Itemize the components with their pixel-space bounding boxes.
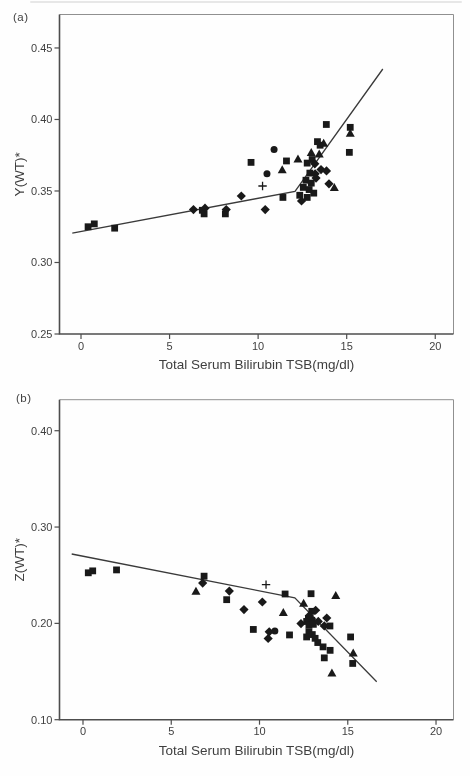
series-circle	[271, 627, 278, 634]
x-tick-label: 20	[430, 725, 442, 737]
series-circle	[263, 146, 277, 177]
data-point-square	[310, 190, 317, 197]
data-point-square	[223, 596, 230, 603]
series-square	[85, 567, 356, 667]
data-point-square	[286, 632, 293, 639]
plot-frame	[60, 15, 454, 335]
data-point-square	[250, 626, 257, 633]
data-point-square	[282, 591, 289, 598]
series-plus	[262, 580, 270, 588]
x-tick-label: 10	[253, 725, 265, 737]
data-point-square	[89, 567, 96, 574]
data-point-diamond	[189, 205, 198, 214]
scatter-chart-b: 051015200.100.200.300.40Total Serum Bili…	[0, 388, 470, 776]
data-point-square	[280, 194, 287, 201]
x-tick-label: 5	[168, 725, 174, 737]
data-point-triangle	[307, 148, 316, 156]
axis-lines	[60, 400, 454, 720]
x-tick-label: 5	[167, 340, 173, 352]
data-point-triangle	[349, 649, 358, 657]
data-point-circle	[271, 627, 278, 634]
data-point-square	[300, 184, 307, 191]
data-point-square	[283, 158, 290, 165]
data-point-diamond	[225, 587, 234, 596]
y-tick-label: 0.35	[31, 185, 52, 197]
scanned-figure-page: (a) 051015200.250.300.350.400.45Total Se…	[0, 0, 470, 776]
data-point-square	[321, 654, 328, 661]
x-tick-label: 15	[341, 340, 353, 352]
x-tick-label: 20	[429, 340, 441, 352]
data-point-square	[347, 634, 354, 641]
data-point-square	[303, 634, 310, 641]
panel-a-label: (a)	[13, 11, 29, 23]
data-point-square	[346, 149, 353, 156]
y-tick-label: 0.40	[31, 113, 52, 125]
data-point-square	[323, 121, 330, 128]
y-tick-label: 0.30	[31, 521, 52, 533]
y-tick-label: 0.10	[31, 714, 52, 726]
data-point-plus	[262, 580, 270, 588]
data-point-square	[349, 660, 356, 667]
x-tick-label: 15	[342, 725, 354, 737]
data-point-triangle	[279, 608, 288, 616]
x-axis-title: Total Serum Bilirubin TSB(mg/dl)	[159, 743, 355, 758]
data-point-triangle	[191, 587, 200, 595]
data-point-circle	[263, 170, 270, 177]
data-point-diamond	[239, 605, 248, 614]
y-tick-label: 0.45	[31, 42, 52, 54]
data-point-square	[201, 573, 208, 580]
data-point-diamond	[261, 205, 270, 214]
data-point-square	[248, 159, 255, 166]
x-tick-label: 10	[252, 340, 264, 352]
data-point-plus	[258, 182, 266, 190]
panel-b-label: (b)	[16, 392, 32, 404]
data-point-diamond	[322, 613, 331, 622]
data-point-diamond	[264, 634, 273, 643]
data-point-diamond	[237, 191, 246, 200]
x-tick-label: 0	[80, 725, 86, 737]
data-point-square	[308, 590, 315, 597]
data-point-square	[308, 180, 315, 187]
y-tick-label: 0.25	[31, 328, 52, 340]
y-tick-label: 0.40	[31, 425, 52, 437]
data-point-triangle	[293, 154, 302, 162]
data-point-square	[320, 643, 327, 650]
data-point-triangle	[278, 165, 287, 173]
series-plus	[258, 182, 266, 190]
y-tick-label: 0.30	[31, 256, 52, 268]
y-axis-title: Y(WT)*	[12, 151, 27, 196]
axis-lines	[60, 15, 454, 335]
panel-b: (b) 051015200.100.200.300.40Total Serum …	[0, 388, 470, 776]
data-point-square	[85, 223, 92, 230]
data-point-circle	[271, 146, 278, 153]
y-tick-label: 0.20	[31, 617, 52, 629]
data-point-square	[327, 647, 334, 654]
data-point-triangle	[331, 591, 340, 599]
data-point-square	[113, 567, 120, 574]
data-point-diamond	[258, 597, 267, 606]
panel-a: (a) 051015200.250.300.350.400.45Total Se…	[0, 0, 470, 388]
x-tick-label: 0	[78, 340, 84, 352]
data-point-triangle	[327, 668, 336, 676]
data-point-square	[91, 220, 98, 227]
plot-frame	[60, 400, 454, 720]
data-point-square	[111, 225, 118, 232]
y-axis-title: Z(WT)*	[12, 537, 27, 581]
x-axis-title: Total Serum Bilirubin TSB(mg/dl)	[159, 357, 355, 372]
scatter-chart-a: 051015200.250.300.350.400.45Total Serum …	[0, 0, 470, 388]
